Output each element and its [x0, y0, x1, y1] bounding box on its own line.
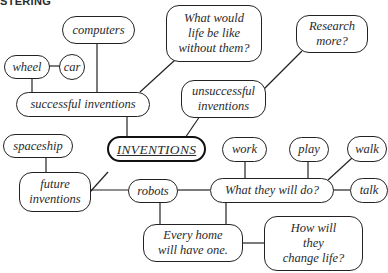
node-research-more: Research more?: [296, 15, 368, 53]
node-robots: robots: [128, 179, 178, 203]
node-unsuccessful-inventions: unsuccessful inventions: [181, 80, 266, 118]
node-play: play: [289, 137, 329, 162]
node-work: work: [222, 137, 267, 162]
node-how-will-they-change-life: How will they change life?: [264, 216, 363, 271]
node-talk: talk: [350, 178, 388, 203]
node-wheel: wheel: [4, 55, 50, 79]
node-spaceship: spaceship: [3, 134, 73, 158]
node-successful-inventions: successful inventions: [16, 92, 150, 117]
node-walk: walk: [347, 136, 387, 162]
node-computers: computers: [62, 16, 135, 44]
node-car: car: [59, 54, 85, 80]
node-every-home: Every home will have one.: [143, 224, 243, 262]
node-what-would-life-be-like: What would life be like without them?: [166, 5, 262, 62]
node-central-inventions: INVENTIONS: [107, 136, 206, 162]
node-what-they-will-do: What they will do?: [210, 178, 334, 203]
node-future-inventions: future inventions: [19, 172, 91, 212]
